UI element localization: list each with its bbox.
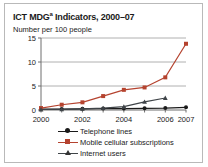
legend-label-internet-users: Internet users <box>80 149 126 158</box>
legend-item-telephone-lines: Telephone lines <box>58 126 203 137</box>
data-point-mobile-cellular-subscriptions-2003 <box>101 94 105 98</box>
x-tick-label-2004: 2004 <box>116 115 133 124</box>
chart-figure: ICT MDGa Indicators, 2000–07 Number per … <box>0 0 208 167</box>
legend-item-internet-users: Internet users <box>58 148 203 159</box>
y-tick-label-0: 0 <box>32 106 36 115</box>
legend-item-mobile-cellular-subscriptions: Mobile cellular subscriptions <box>58 137 203 148</box>
data-point-mobile-cellular-subscriptions-2005 <box>143 85 147 89</box>
triangle-marker-icon <box>58 148 78 159</box>
data-point-mobile-cellular-subscriptions-2007 <box>184 42 188 46</box>
y-tick-label-10: 10 <box>28 58 36 67</box>
data-point-mobile-cellular-subscriptions-2001 <box>60 103 64 107</box>
data-point-mobile-cellular-subscriptions-2004 <box>122 88 126 92</box>
legend-label-telephone-lines: Telephone lines <box>80 127 132 136</box>
x-tick-label-2007: 2007 <box>178 115 195 124</box>
square-marker-icon <box>58 137 78 148</box>
data-point-mobile-cellular-subscriptions-2006 <box>163 75 167 79</box>
x-tick-label-2000: 2000 <box>33 115 50 124</box>
data-point-telephone-lines-2006 <box>163 106 167 110</box>
data-point-telephone-lines-2007 <box>184 105 188 109</box>
chart-legend: Telephone lines Mobile cellular subscrip… <box>58 126 203 159</box>
legend-label-mobile-cellular-subscriptions: Mobile cellular subscriptions <box>80 138 174 147</box>
data-point-telephone-lines-2005 <box>143 106 147 110</box>
data-point-mobile-cellular-subscriptions-2002 <box>80 100 84 104</box>
x-tick-label-2006: 2006 <box>157 115 174 124</box>
x-tick-label-2002: 2002 <box>74 115 91 124</box>
circle-marker-icon <box>58 126 78 137</box>
y-tick-label-5: 5 <box>32 82 36 91</box>
y-tick-label-15: 15 <box>28 34 36 43</box>
